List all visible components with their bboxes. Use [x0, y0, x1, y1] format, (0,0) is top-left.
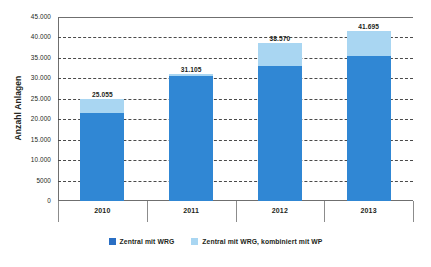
x-axis-category-label: 2012	[236, 207, 324, 214]
y-axis-tick-label: 40.000	[5, 33, 51, 40]
bar-value-label: 38.570	[269, 35, 290, 42]
bar-segment-primary[interactable]	[347, 56, 391, 201]
bar-segment-primary[interactable]	[169, 76, 213, 201]
x-axis-categories: 2010201120122013	[58, 201, 413, 222]
x-axis-category-label: 2013	[325, 207, 413, 214]
plot-top-border	[58, 17, 413, 18]
legend-item[interactable]: Zentral mit WRG, kombiniert mit WP	[191, 238, 322, 245]
y-axis-tick-label: 5000	[5, 177, 51, 184]
bar-chart: Anzahl Anlagen 25.05531.10538.57041.695 …	[0, 0, 431, 267]
legend-item[interactable]: Zentral mit WRG	[109, 238, 175, 245]
legend-label: Zentral mit WRG	[120, 238, 175, 245]
y-axis-tick-label: 45.000	[5, 13, 51, 20]
bar-value-label: 31.105	[181, 66, 202, 73]
legend-label: Zentral mit WRG, kombiniert mit WP	[202, 238, 322, 245]
y-axis-tick-label: 25.000	[5, 95, 51, 102]
bar-group[interactable]: 41.695	[347, 31, 391, 201]
bar-segment-secondary[interactable]	[347, 31, 391, 56]
bar-group[interactable]: 25.055	[80, 99, 124, 201]
legend-swatch-icon	[191, 238, 198, 245]
bar-segment-secondary[interactable]	[258, 43, 302, 66]
chart-legend: Zentral mit WRGZentral mit WRG, kombinie…	[0, 238, 431, 245]
bar-group[interactable]: 38.570	[258, 43, 302, 201]
plot-area: 25.05531.10538.57041.695	[58, 17, 413, 201]
y-axis-tick-label: 0	[5, 197, 51, 204]
bar-segment-secondary[interactable]	[80, 99, 124, 114]
y-axis-title: Anzahl Anlagen	[13, 48, 23, 168]
x-axis-category-label: 2011	[147, 207, 235, 214]
bar-value-label: 25.055	[92, 91, 113, 98]
bar-segment-primary[interactable]	[80, 113, 124, 201]
legend-swatch-icon	[109, 238, 116, 245]
bar-group[interactable]: 31.105	[169, 74, 213, 201]
category-separator	[413, 201, 414, 222]
bar-segment-primary[interactable]	[258, 66, 302, 201]
y-axis-tick-label: 10.000	[5, 156, 51, 163]
y-axis-tick-label: 35.000	[5, 54, 51, 61]
bar-value-label: 41.695	[358, 23, 379, 30]
y-axis-tick-label: 15.000	[5, 136, 51, 143]
y-axis-tick-label: 20.000	[5, 115, 51, 122]
y-axis-tick-label: 30.000	[5, 74, 51, 81]
y-axis-line	[58, 17, 59, 201]
x-axis-category-label: 2010	[58, 207, 146, 214]
